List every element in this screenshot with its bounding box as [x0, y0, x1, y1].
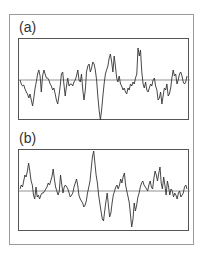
- panel-a-waveform: [19, 39, 190, 121]
- panel-a: [18, 38, 189, 120]
- panel-b-waveform: [19, 150, 190, 232]
- panel-a-label: (a): [19, 20, 36, 34]
- panel-b: [18, 149, 189, 231]
- panel-b-label: (b): [19, 131, 36, 145]
